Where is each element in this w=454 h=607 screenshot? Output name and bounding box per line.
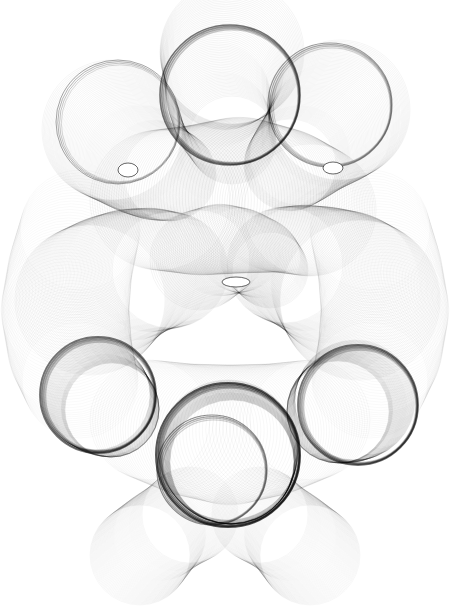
- artwork-canvas: Generative spirograph line drawing: [0, 0, 454, 607]
- spirograph-artwork: [0, 0, 454, 607]
- tube-layer: [1, 0, 449, 605]
- right-eye-hole: [323, 162, 343, 174]
- center-gap: [222, 277, 250, 287]
- left-eye-hole: [118, 163, 138, 177]
